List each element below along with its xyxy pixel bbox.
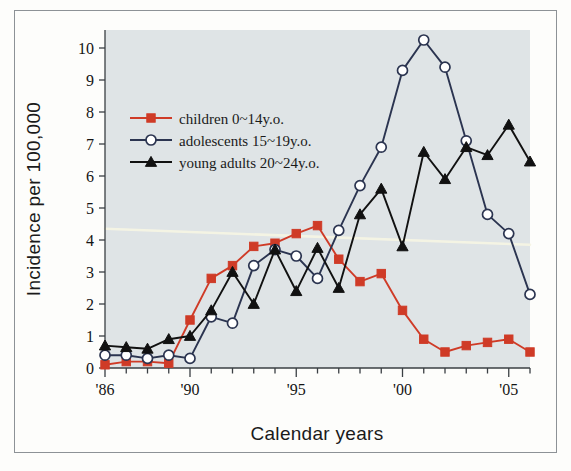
- data-point-circle-marker: [504, 229, 514, 239]
- data-point-square-marker: [101, 361, 109, 369]
- data-point-circle-marker: [291, 251, 301, 261]
- y-tick-label: 3: [86, 264, 94, 281]
- y-tick-label: 4: [86, 232, 94, 249]
- y-tick-label: 6: [86, 168, 94, 185]
- data-point-circle-marker: [398, 65, 408, 75]
- data-point-square-marker: [250, 242, 258, 250]
- data-point-circle-marker: [313, 273, 323, 283]
- data-point-circle-marker: [228, 318, 238, 328]
- data-point-square-marker: [292, 229, 300, 237]
- chart-plot-wrapper: 012345678910 '86'90'95'00'05 Calendar ye…: [0, 0, 571, 471]
- data-point-circle-marker: [249, 261, 259, 271]
- data-point-square-marker: [441, 348, 449, 356]
- data-point-circle-marker: [143, 353, 153, 363]
- x-tick-label: '05: [499, 381, 518, 398]
- y-tick-label: 10: [78, 40, 94, 57]
- y-tick-label: 5: [86, 200, 94, 217]
- x-tick-label: '95: [287, 381, 306, 398]
- x-tick-label: '86: [96, 381, 115, 398]
- data-point-circle-marker: [440, 62, 450, 72]
- x-axis-title: Calendar years: [250, 423, 383, 444]
- data-point-circle-marker: [355, 181, 365, 191]
- y-axis-ticks: 012345678910: [78, 40, 105, 377]
- data-point-square-marker: [186, 316, 194, 324]
- y-tick-label: 1: [86, 328, 94, 345]
- x-axis-ticks: '86'90'95'00'05: [96, 368, 530, 398]
- data-point-square-marker: [398, 306, 406, 314]
- data-point-square-marker: [505, 335, 513, 343]
- data-point-square-marker: [335, 255, 343, 263]
- data-point-square-marker: [207, 274, 215, 282]
- data-point-square-marker: [462, 341, 470, 349]
- legend-label: adolescents 15~19y.o.: [179, 133, 312, 149]
- data-point-square-marker: [377, 269, 385, 277]
- data-point-circle-marker: [525, 289, 535, 299]
- x-tick-label: '90: [181, 381, 200, 398]
- data-point-square-marker: [526, 348, 534, 356]
- y-tick-label: 2: [86, 296, 94, 313]
- data-point-square-marker: [420, 335, 428, 343]
- legend-label: young adults 20~24y.o.: [179, 155, 319, 171]
- plot-background: [105, 30, 530, 368]
- data-point-circle-marker: [483, 209, 493, 219]
- data-point-circle-marker: [334, 225, 344, 235]
- data-point-square-marker: [313, 221, 321, 229]
- data-point-square-marker: [483, 338, 491, 346]
- x-tick-label: '00: [393, 381, 412, 398]
- data-point-square-marker: [147, 114, 155, 122]
- data-point-circle-marker: [376, 142, 386, 152]
- legend-label: children 0~14y.o.: [179, 111, 284, 127]
- y-axis-title: Incidence per 100,000: [23, 102, 44, 296]
- data-point-square-marker: [356, 277, 364, 285]
- data-point-circle-marker: [419, 35, 429, 45]
- figure-container: 012345678910 '86'90'95'00'05 Calendar ye…: [0, 0, 571, 471]
- y-tick-label: 7: [86, 136, 94, 153]
- y-tick-label: 9: [86, 72, 94, 89]
- y-tick-label: 8: [86, 104, 94, 121]
- data-point-circle-marker: [146, 135, 156, 145]
- line-chart: 012345678910 '86'90'95'00'05 Calendar ye…: [0, 0, 571, 471]
- data-point-circle-marker: [100, 350, 110, 360]
- data-point-circle-marker: [164, 350, 174, 360]
- data-point-circle-marker: [185, 353, 195, 363]
- y-tick-label: 0: [86, 360, 94, 377]
